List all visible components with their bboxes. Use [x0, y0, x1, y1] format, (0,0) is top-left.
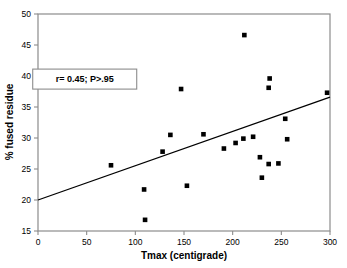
data-point: [266, 162, 271, 167]
x-tick-label: 50: [82, 237, 92, 247]
plot-frame: [38, 14, 330, 231]
y-tick-label: 50: [22, 9, 32, 19]
y-tick-label: 30: [22, 133, 32, 143]
data-point: [233, 141, 238, 146]
regression-line: [38, 97, 330, 200]
x-axis-title: Tmax (centigrade): [141, 250, 227, 261]
data-point: [185, 183, 190, 188]
x-tick-label: 200: [226, 237, 240, 247]
data-point: [142, 187, 147, 192]
data-point: [160, 149, 165, 154]
data-point: [283, 116, 288, 121]
annotation-box: r= 0.45; P>.95: [33, 69, 137, 89]
x-tick-label: 150: [177, 237, 191, 247]
data-point: [201, 132, 206, 137]
data-point: [143, 218, 148, 223]
chart-svg: 050100150200250300 1520253035404550 r= 0…: [0, 0, 347, 268]
data-point: [325, 90, 330, 95]
x-tick-label: 0: [36, 237, 41, 247]
y-tick-label: 40: [22, 71, 32, 81]
data-point: [266, 85, 271, 90]
y-tick-label: 35: [22, 102, 32, 112]
data-point: [276, 161, 281, 166]
x-tick-label: 100: [128, 237, 142, 247]
data-point: [168, 133, 173, 138]
data-point: [179, 87, 184, 92]
scatter-chart: 050100150200250300 1520253035404550 r= 0…: [0, 0, 347, 268]
data-point-group: [109, 33, 330, 222]
annotation-label: r= 0.45; P>.95: [56, 74, 114, 84]
data-point: [242, 33, 247, 38]
data-point: [241, 136, 246, 141]
data-point: [222, 146, 227, 151]
data-point: [258, 155, 263, 160]
y-tick-label: 15: [22, 226, 32, 236]
y-tick-label: 25: [22, 164, 32, 174]
y-axis-ticks: 1520253035404550: [22, 9, 38, 236]
data-point: [109, 163, 114, 168]
y-axis-title: % fused residue: [4, 83, 15, 160]
y-tick-label: 20: [22, 195, 32, 205]
data-point: [251, 134, 256, 139]
x-tick-label: 250: [274, 237, 288, 247]
y-tick-label: 45: [22, 40, 32, 50]
x-tick-label: 300: [323, 237, 337, 247]
data-point: [260, 175, 265, 180]
x-axis-ticks: 050100150200250300: [36, 231, 338, 247]
data-point: [267, 76, 272, 81]
data-point: [285, 137, 290, 142]
